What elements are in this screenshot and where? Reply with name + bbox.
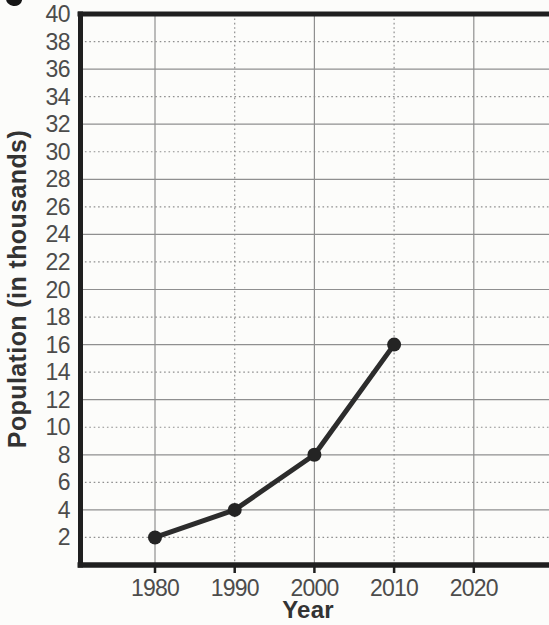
data-line-population: [155, 345, 394, 538]
y-tick-label-2: 2: [58, 524, 70, 550]
y-tick-label-20: 20: [45, 277, 70, 303]
y-tick-label-30: 30: [45, 139, 70, 165]
x-tick-label-2020: 2020: [450, 575, 498, 601]
x-tick-label-1990: 1990: [211, 575, 259, 601]
y-tick-label-6: 6: [58, 469, 70, 495]
data-point-1990: [228, 503, 242, 517]
y-tick-label-38: 38: [45, 29, 70, 55]
y-tick-label-28: 28: [45, 166, 70, 192]
y-tick-label-36: 36: [45, 56, 70, 82]
y-tick-label-14: 14: [45, 359, 70, 385]
y-tick-label-40: 40: [45, 1, 70, 27]
y-tick-label-26: 26: [45, 194, 70, 220]
y-tick-label-32: 32: [45, 111, 70, 137]
chart-canvas: 2468101214161820222426283032343638401980…: [0, 0, 549, 625]
y-tick-label-10: 10: [45, 414, 70, 440]
y-tick-label-4: 4: [58, 497, 71, 523]
y-tick-label-16: 16: [45, 332, 70, 358]
y-tick-label-24: 24: [45, 221, 70, 247]
population-line-chart: 2468101214161820222426283032343638401980…: [0, 0, 549, 625]
data-point-1980: [148, 530, 162, 544]
data-point-2010: [387, 338, 401, 352]
y-axis-title: Population (in thousands): [3, 130, 32, 448]
y-tick-label-18: 18: [45, 304, 70, 330]
data-point-2000: [307, 448, 321, 462]
y-tick-label-12: 12: [45, 387, 70, 413]
y-tick-label-34: 34: [45, 84, 70, 110]
x-tick-label-2010: 2010: [370, 575, 418, 601]
y-tick-label-22: 22: [45, 249, 70, 275]
y-tick-label-8: 8: [58, 442, 70, 468]
x-tick-label-1980: 1980: [131, 575, 179, 601]
cropped-character-fragment: [5, 0, 23, 7]
x-axis-title: Year: [282, 596, 334, 624]
